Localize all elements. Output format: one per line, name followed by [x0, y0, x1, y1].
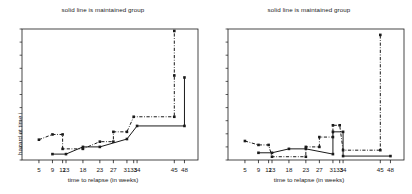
- data-point-marker: [38, 138, 41, 141]
- data-point-marker: [126, 131, 129, 134]
- data-point-marker: [244, 140, 247, 143]
- data-point-marker: [342, 155, 345, 158]
- data-point-marker: [65, 153, 68, 156]
- x-tick-label: 23: [302, 166, 309, 173]
- x-tick-label: 27: [316, 166, 323, 173]
- data-point-marker: [99, 140, 102, 143]
- data-point-marker: [305, 146, 308, 149]
- x-tick-label: 9: [51, 166, 54, 173]
- data-point-marker: [126, 138, 129, 141]
- data-point-marker: [82, 148, 85, 151]
- data-point-marker: [51, 153, 54, 156]
- data-point-marker: [99, 146, 102, 149]
- data-point-marker: [305, 155, 308, 158]
- data-point-marker: [379, 34, 382, 37]
- data-point-marker: [257, 144, 260, 147]
- data-point-marker: [51, 133, 54, 136]
- data-point-marker: [288, 148, 291, 151]
- x-tick-label: 45: [171, 166, 178, 173]
- x-tick-label: 23: [96, 166, 103, 173]
- data-point-marker: [112, 131, 115, 134]
- data-point-marker: [318, 136, 321, 139]
- panel-right: solid line is maintained group hazard ov…: [206, 0, 412, 194]
- panel-right-plot-area: [206, 0, 412, 194]
- data-point-marker: [271, 155, 274, 158]
- data-point-marker: [389, 155, 392, 158]
- data-point-marker: [379, 149, 382, 152]
- panel-right-x-axis-label: time to relapse (in weeks): [206, 176, 412, 183]
- hazard-plot-figure: solid line is maintained group hazard at…: [0, 0, 412, 194]
- x-tick-label: 18: [285, 166, 292, 173]
- series-dashdot: [39, 31, 174, 149]
- data-point-marker: [332, 124, 335, 127]
- panel-left-x-axis-label: time to relapse (in weeks): [0, 176, 206, 183]
- panel-left: solid line is maintained group hazard at…: [0, 0, 206, 194]
- data-point-marker: [183, 125, 186, 128]
- x-tick-label: 9: [257, 166, 260, 173]
- series-dashdot: [245, 35, 380, 157]
- data-point-marker: [173, 30, 176, 33]
- x-tick-label: 5: [37, 166, 40, 173]
- data-point-marker: [342, 149, 345, 152]
- data-point-marker: [183, 76, 186, 79]
- x-tick-label: 45: [377, 166, 384, 173]
- data-point-marker: [342, 131, 345, 134]
- data-point-marker: [136, 125, 139, 128]
- x-tick-label: 13: [63, 166, 70, 173]
- data-point-marker: [267, 144, 270, 147]
- data-point-marker: [61, 148, 64, 151]
- x-tick-label: 27: [110, 166, 117, 173]
- x-tick-label: 48: [387, 166, 394, 173]
- data-point-marker: [332, 136, 335, 139]
- x-tick-label: 5: [243, 166, 246, 173]
- x-tick-label: 48: [181, 166, 188, 173]
- x-tick-label: 34: [134, 166, 141, 173]
- series-solid: [52, 77, 184, 154]
- x-tick-label: 18: [79, 166, 86, 173]
- x-tick-label: 13: [269, 166, 276, 173]
- x-tick-label: 34: [340, 166, 347, 173]
- data-point-marker: [61, 133, 64, 136]
- data-point-marker: [173, 74, 176, 77]
- data-point-marker: [318, 146, 321, 149]
- data-point-marker: [257, 151, 260, 154]
- data-point-marker: [332, 153, 335, 156]
- data-point-marker: [338, 124, 341, 127]
- data-point-marker: [132, 115, 135, 118]
- data-point-marker: [173, 115, 176, 118]
- panel-left-plot-area: [0, 0, 206, 194]
- series-solid: [258, 132, 390, 156]
- data-point-marker: [112, 140, 115, 143]
